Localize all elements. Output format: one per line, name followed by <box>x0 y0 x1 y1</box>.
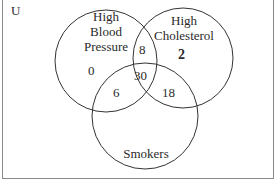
region-cholesterol-only: 2 <box>178 48 185 62</box>
region-bp-smokers: 6 <box>113 86 120 100</box>
set-label-high-blood-pressure: High Blood Pressure <box>84 9 128 54</box>
region-cholesterol-smokers: 18 <box>162 86 175 100</box>
region-bp-cholesterol: 8 <box>139 43 146 57</box>
region-all-three: 30 <box>134 69 147 83</box>
region-bp-only: 0 <box>88 64 95 78</box>
set-label-high-cholesterol: High Cholesterol <box>146 13 222 43</box>
set-label-smokers: Smokers <box>120 146 172 161</box>
universe-label: U <box>11 3 20 18</box>
